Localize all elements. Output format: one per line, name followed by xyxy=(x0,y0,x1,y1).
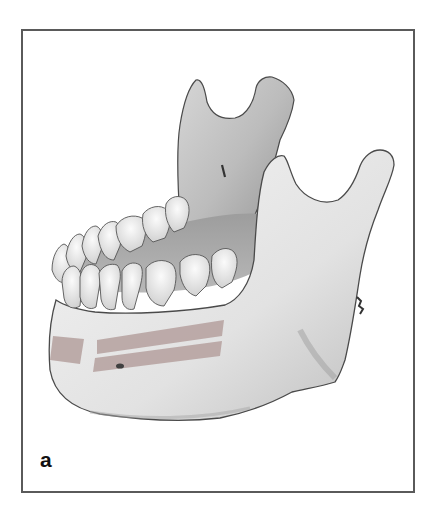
chin-band xyxy=(50,336,84,364)
mental-foramen xyxy=(116,363,124,368)
mandible-illustration xyxy=(0,0,439,520)
panel-label: a xyxy=(40,449,52,470)
